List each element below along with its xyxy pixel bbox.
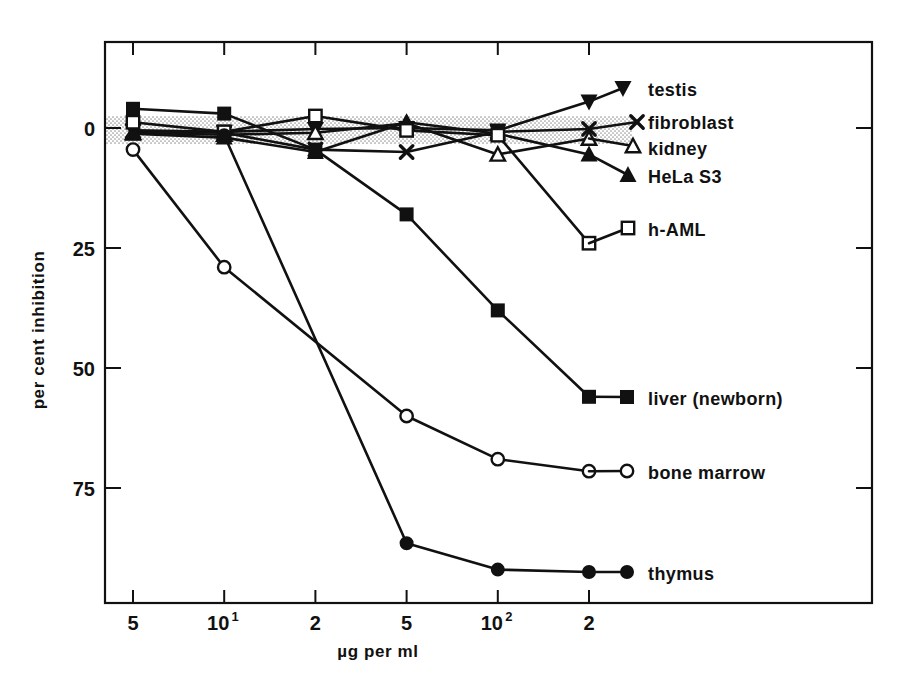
marker-h-aml-3 [400, 124, 412, 136]
series-group [126, 95, 596, 578]
marker-liver-newborn--2 [309, 143, 321, 155]
marker-thymus-2 [492, 563, 504, 575]
marker-thymus-0 [218, 129, 230, 141]
y-axis-tick-labels: 0255075 [73, 118, 95, 500]
marker-h-aml-4 [492, 129, 504, 141]
x-tick-exponent-1: 1 [232, 609, 239, 624]
y-tick-label-1: 25 [73, 238, 95, 260]
legend-label-h-aml: h-AML [648, 220, 706, 240]
x-tick-label-3: 5 [401, 612, 412, 634]
legend-label-thymus: thymus [648, 564, 714, 584]
x-tick-label-2: 2 [310, 612, 321, 634]
marker-h-aml-0 [127, 116, 139, 128]
legend-marker-h-aml [622, 222, 634, 234]
legend-marker-thymus [621, 566, 633, 578]
marker-bone-marrow-2 [400, 410, 412, 422]
x-tick-label-0: 5 [127, 612, 138, 634]
x-tick-label-4: 10 [481, 612, 503, 634]
chart-figure: 5101251022 0255075 testisfibroblastkidne… [0, 0, 904, 675]
series-line-bone-marrow [133, 150, 589, 472]
legend-label-testis: testis [648, 80, 697, 100]
y-axis-title: per cent inhibition [29, 251, 48, 410]
y-axis-ticks [105, 128, 872, 488]
marker-liver-newborn--1 [218, 107, 230, 119]
y-tick-label-2: 50 [73, 358, 95, 380]
legend-marker-bone-marrow [621, 465, 633, 477]
x-tick-label-1: 10 [207, 612, 229, 634]
x-tick-exponent-4: 2 [505, 609, 512, 624]
series-line-thymus [224, 135, 589, 572]
marker-h-aml-2 [309, 110, 321, 122]
y-tick-label-3: 75 [73, 478, 95, 500]
legend-marker-hela-s3 [621, 168, 635, 181]
legend-label-bone-marrow: bone marrow [648, 463, 766, 483]
marker-liver-newborn--3 [400, 208, 412, 220]
marker-liver-newborn--0 [127, 103, 139, 115]
legend-label-fibroblast: fibroblast [648, 113, 734, 133]
marker-bone-marrow-1 [218, 261, 230, 273]
per-cent-inhibition-chart: 5101251022 0255075 testisfibroblastkidne… [0, 0, 904, 675]
legend-marker-testis [616, 82, 630, 95]
marker-thymus-1 [400, 537, 412, 549]
x-tick-label-5: 2 [583, 612, 594, 634]
legend-group: testisfibroblastkidneyHeLa S3h-AMLliver … [589, 80, 783, 584]
marker-bone-marrow-0 [127, 143, 139, 155]
legend-label-kidney: kidney [648, 139, 707, 159]
legend-marker-liver-newborn- [621, 391, 633, 403]
y-tick-label-0: 0 [84, 118, 95, 140]
x-axis-tick-labels: 5101251022 [127, 609, 594, 634]
marker-liver-newborn--4 [492, 304, 504, 316]
legend-leader-hela-s3 [589, 154, 628, 175]
marker-bone-marrow-3 [492, 453, 504, 465]
legend-label-liver-newborn-: liver (newborn) [648, 389, 783, 409]
legend-label-hela-s3: HeLa S3 [648, 167, 722, 187]
x-axis-title: µg per ml [337, 642, 418, 661]
